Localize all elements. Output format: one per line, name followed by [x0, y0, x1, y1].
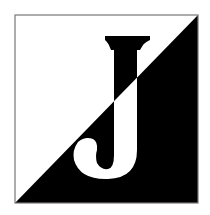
j-logo: J — [0, 0, 210, 215]
j-logo-icon — [0, 0, 210, 215]
